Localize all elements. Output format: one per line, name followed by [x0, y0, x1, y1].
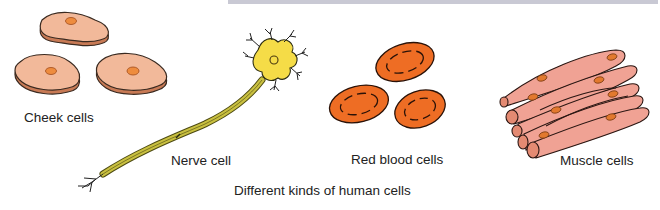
muscle-cells-group	[500, 50, 649, 158]
cheek-cell-left	[15, 55, 80, 95]
figure-caption: Different kinds of human cells	[234, 183, 411, 198]
rbc-right	[389, 83, 450, 135]
muscle-cells-label: Muscle cells	[560, 153, 634, 168]
cells-illustration	[0, 0, 660, 210]
nerve-cell-label: Nerve cell	[171, 153, 231, 168]
cheek-cell-right	[96, 53, 166, 94]
rbc-left	[326, 79, 393, 128]
axon-terminals	[78, 174, 103, 192]
cheek-cell-top	[40, 12, 108, 45]
red-blood-cells-label: Red blood cells	[351, 152, 443, 167]
rbc-top	[371, 36, 439, 89]
cell-body	[253, 39, 297, 81]
red-blood-cells-group	[326, 36, 451, 135]
cheek-cells-label: Cheek cells	[24, 110, 94, 125]
cheek-cells-group	[15, 12, 167, 94]
